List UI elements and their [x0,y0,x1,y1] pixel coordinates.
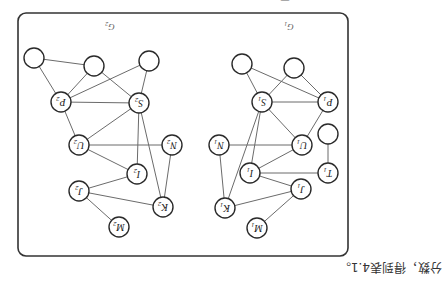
graph-node-u1: U1 [292,135,312,155]
graph-node-k1: K1 [215,198,235,218]
graph-node-i2: I2 [127,164,147,184]
graph-edge [225,102,262,208]
graph-node-u2: U2 [69,135,89,155]
graph-node-k2: K2 [153,197,173,217]
graph-node-unlabeled [139,51,159,71]
graph-node-p2: P2 [51,92,71,112]
graph-edge [79,191,163,207]
graph-node-j1: J1 [291,179,311,199]
graph-title-g1: G1 [284,21,294,32]
node-circle [232,54,252,74]
graph-node-n1: N1 [209,135,229,155]
graph-node-unlabeled [84,56,104,76]
graph-nodes: S1P1N1U1I1T1J1K1M1P2S2U2N2I2J2K2M2 [24,48,338,238]
graph-node-m2: M2 [109,217,129,237]
graph-edge [139,103,163,207]
graph-titles: G2G1 [105,21,294,32]
graph-comparison-figure: S1P1N1U1I1T1J1K1M1P2S2U2N2I2J2K2M2 G2G1 [0,0,442,281]
graph-node-p1: P1 [318,92,338,112]
graph-node-i1: I1 [240,163,260,183]
node-circle [139,51,159,71]
rotated-document-page: 图 4.x S1P1N1U1I1T1J1K1M1P2S2U2N2I2J2K2M2… [0,0,442,281]
graph-node-unlabeled [318,124,338,144]
node-circle [318,124,338,144]
graph-edge [250,102,262,173]
node-circle [284,58,304,78]
body-text-line: 分数，得到表4.1。 [326,261,442,277]
graph-node-t1: T1 [318,163,338,183]
graph-node-s1: S1 [252,92,272,112]
graph-node-unlabeled [284,58,304,78]
graph-node-unlabeled [232,54,252,74]
graph-edge [61,102,139,103]
graph-node-unlabeled [24,48,44,68]
node-circle [24,48,44,68]
graph-node-j2: J2 [69,181,89,201]
graph-node-n2: N2 [162,135,182,155]
graph-title-g2: G2 [105,21,115,32]
node-circle [84,56,104,76]
figure-frame [18,13,348,256]
graph-edge [79,103,139,145]
graph-node-m1: M1 [247,218,267,238]
graph-node-s2: S2 [129,93,149,113]
